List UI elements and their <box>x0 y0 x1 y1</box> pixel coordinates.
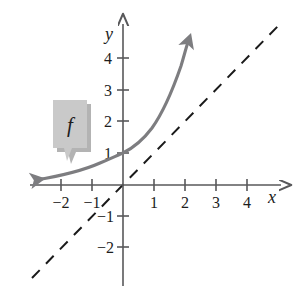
x-axis-tick-labels: −2 −1 1 2 3 4 <box>52 194 251 211</box>
function-callout: f <box>53 100 91 164</box>
x-tick-label-1: 1 <box>150 194 158 211</box>
x-tick-label-2: 2 <box>181 194 189 211</box>
y-axis-label: y <box>103 24 113 44</box>
y-tick-label-4: 4 <box>104 50 112 67</box>
y-tick-label--2: −2 <box>97 239 114 256</box>
coordinate-plane-svg: −2 −1 1 2 3 4 4 3 2 1 −1 −2 x y f <box>0 0 295 289</box>
x-tick-label-3: 3 <box>212 194 220 211</box>
y-tick-label-2: 2 <box>104 113 112 130</box>
y-tick-label-3: 3 <box>104 82 112 99</box>
graph-figure: −2 −1 1 2 3 4 4 3 2 1 −1 −2 x y f <box>0 0 295 289</box>
x-axis-label: x <box>267 187 276 207</box>
y-axis-tick-labels: 4 3 2 1 −1 −2 <box>97 50 114 256</box>
y-tick-label--1: −1 <box>97 208 114 225</box>
x-tick-label--2: −2 <box>52 194 69 211</box>
x-tick-label-4: 4 <box>243 194 251 211</box>
